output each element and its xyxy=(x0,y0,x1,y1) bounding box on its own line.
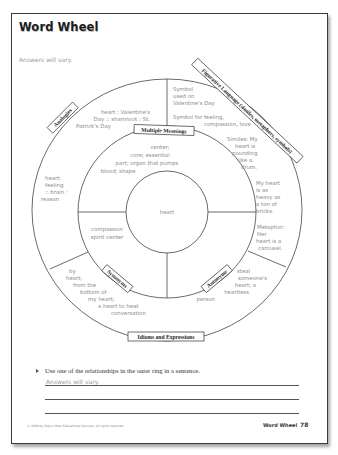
answer-line-2[interactable] xyxy=(45,399,299,400)
svg-text:someone's: someone's xyxy=(238,275,267,281)
copyright-text: © 2009 by Sopris West Educational Servic… xyxy=(27,424,124,428)
svg-text:conversation: conversation xyxy=(111,310,146,316)
svg-text:Valentine's Day: Valentine's Day xyxy=(173,100,216,107)
exercise-answer: Answers will vary. xyxy=(46,378,99,385)
svg-text:compassion: compassion xyxy=(91,226,123,233)
svg-text:Patrick's Day: Patrick's Day xyxy=(76,123,112,130)
center-word: heart xyxy=(160,209,174,215)
idioms-text: by heart; from the bottom of my heart; a… xyxy=(66,268,267,316)
svg-text:spirit center: spirit center xyxy=(91,234,124,241)
svg-text:Synonyms: Synonyms xyxy=(106,268,129,289)
svg-text:Antonyms: Antonyms xyxy=(205,268,228,289)
idioms-expressions-label: Idioms and Expressions xyxy=(128,332,204,341)
multiple-meanings-label: Multiple Meanings xyxy=(134,124,194,135)
svg-text:Her: Her xyxy=(257,231,267,237)
svg-text:by: by xyxy=(69,268,76,275)
svg-text:like a: like a xyxy=(238,157,252,163)
svg-text:heart; a: heart; a xyxy=(235,282,256,288)
svg-text:Analogies: Analogies xyxy=(52,107,73,128)
synonyms-text: compassion spirit center xyxy=(91,226,124,241)
svg-text:blood; shape: blood; shape xyxy=(101,168,136,175)
svg-text:a heart to heat: a heart to heat xyxy=(98,303,138,309)
answer-line-1[interactable] xyxy=(45,385,299,386)
svg-text:pounding: pounding xyxy=(232,150,257,157)
exercise-prompt: Use one of the relationships in the oute… xyxy=(36,367,200,374)
bullet-arrow-icon xyxy=(36,369,39,373)
svg-text:feeling: feeling xyxy=(45,182,63,189)
svg-text:used on: used on xyxy=(173,93,194,99)
svg-text:Similes: My: Similes: My xyxy=(227,136,258,143)
svg-text:part; organ that pumps: part; organ that pumps xyxy=(116,160,179,167)
svg-text:heartless: heartless xyxy=(224,289,249,295)
svg-text:a ton of: a ton of xyxy=(256,201,277,207)
svg-text:center;: center; xyxy=(150,144,169,150)
svg-text:My heart: My heart xyxy=(256,180,280,187)
multiple-meanings-text: center; core; essential part; organ that… xyxy=(101,144,179,175)
svg-text:heart is: heart is xyxy=(235,143,256,149)
svg-text:person: person xyxy=(197,296,215,303)
svg-text:heart is a: heart is a xyxy=(256,238,281,244)
svg-text:steal: steal xyxy=(237,268,250,274)
word-wheel-diagram: heart Multiple Meanings center; core; es… xyxy=(0,0,338,455)
svg-text:heart:: heart: xyxy=(45,175,61,181)
svg-text:my heart;: my heart; xyxy=(88,296,115,303)
svg-text:from the: from the xyxy=(73,282,97,288)
svg-text:Symbol: Symbol xyxy=(173,86,193,93)
page-number: 78 xyxy=(300,421,308,428)
answer-line-3[interactable] xyxy=(45,413,299,414)
svg-text:drum.: drum. xyxy=(241,164,257,170)
footer-section-title: Word Wheel xyxy=(263,422,297,428)
svg-text:Idioms and Expressions: Idioms and Expressions xyxy=(138,334,196,340)
svg-text:bottom of: bottom of xyxy=(80,289,107,295)
figurative-language-text: Symbol used on Valentine's Day Symbol fo… xyxy=(173,86,285,251)
svg-text:carousel.: carousel. xyxy=(258,245,283,251)
svg-text:compassion, love: compassion, love xyxy=(204,121,251,128)
svg-text:bricks.: bricks. xyxy=(256,208,274,214)
svg-text:heart;: heart; xyxy=(66,275,82,281)
svg-text:Symbol for feeling,: Symbol for feeling, xyxy=(173,114,224,121)
svg-text::: brain :: :: brain : xyxy=(45,189,68,195)
svg-text:is as: is as xyxy=(256,187,268,193)
svg-text:Metaphor:: Metaphor: xyxy=(257,224,285,231)
svg-text:reason: reason xyxy=(41,196,59,202)
svg-text:Day :: shamrock : St.: Day :: shamrock : St. xyxy=(94,116,151,123)
svg-text:heart : Valentine's: heart : Valentine's xyxy=(101,109,150,115)
analogies-label: Analogies xyxy=(47,102,78,133)
svg-text:heavy as: heavy as xyxy=(256,194,280,201)
svg-text:core; essential: core; essential xyxy=(130,152,169,158)
